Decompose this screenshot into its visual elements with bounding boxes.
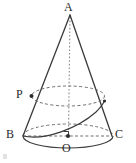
vertex-label-a: A xyxy=(64,1,73,13)
point-dot-o xyxy=(66,134,70,138)
cone-axis-ao xyxy=(69,17,71,135)
slant-line-ac xyxy=(70,15,112,136)
upper-cross-section-ellipse xyxy=(32,86,105,106)
vertex-label-o: O xyxy=(62,142,71,154)
slant-line-ab xyxy=(23,15,70,136)
corner-artifact-mark xyxy=(3,154,7,159)
vertex-label-b: B xyxy=(6,128,14,140)
vertex-label-c: C xyxy=(115,128,123,140)
vertex-label-p: P xyxy=(16,88,23,100)
geometry-figure: A B C O P xyxy=(0,0,136,163)
point-dot-p xyxy=(30,94,34,98)
point-dot-q xyxy=(103,99,106,102)
